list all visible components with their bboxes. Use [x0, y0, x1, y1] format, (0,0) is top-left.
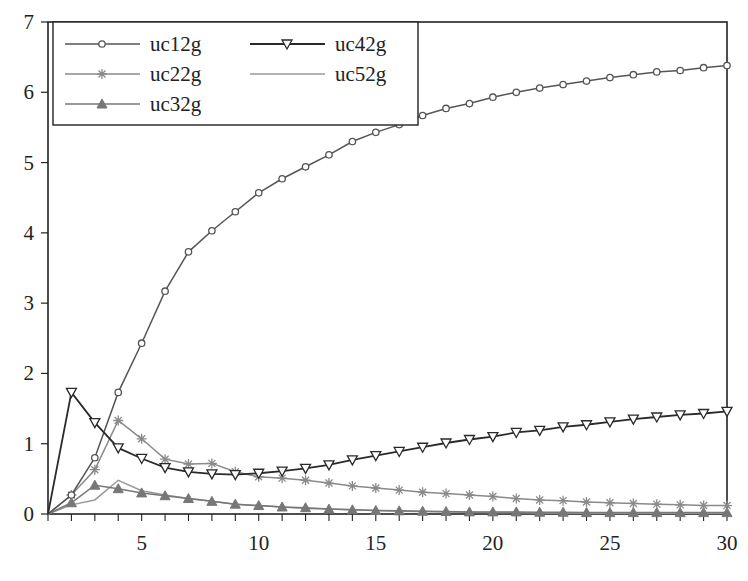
y-tick-label: 1 — [24, 432, 35, 456]
circle-marker — [490, 94, 496, 100]
y-tick-label: 0 — [24, 502, 35, 526]
star-marker — [97, 69, 107, 79]
circle-marker — [99, 41, 105, 47]
series-uc52g — [48, 480, 727, 514]
circle-marker — [162, 288, 168, 294]
star-marker — [90, 465, 100, 475]
legend-label: uc42g — [335, 32, 387, 56]
circle-marker — [92, 455, 98, 461]
legend-label: uc52g — [335, 62, 387, 86]
circle-marker — [443, 105, 449, 111]
star-marker — [394, 485, 404, 495]
circle-marker — [700, 64, 706, 70]
x-tick-label: 10 — [248, 531, 269, 555]
circle-marker — [138, 340, 144, 346]
star-marker — [605, 498, 615, 508]
star-marker — [699, 501, 709, 511]
star-marker — [207, 458, 217, 468]
x-tick-label: 5 — [136, 531, 147, 555]
y-tick-label: 3 — [24, 291, 35, 315]
legend-label: uc22g — [150, 62, 202, 86]
star-marker — [418, 487, 428, 497]
circle-marker — [419, 112, 425, 118]
triangle-up-marker — [90, 480, 100, 489]
star-marker — [324, 478, 334, 488]
y-tick-label: 5 — [24, 151, 35, 175]
star-marker — [160, 454, 170, 464]
y-tick-label: 2 — [24, 361, 35, 385]
circle-marker — [326, 152, 332, 158]
star-marker — [301, 475, 311, 485]
star-marker — [488, 491, 498, 501]
star-marker — [441, 489, 451, 499]
series-line — [48, 392, 727, 514]
y-tick-label: 4 — [24, 221, 35, 245]
series-uc42g — [48, 388, 732, 514]
series-line — [48, 480, 727, 514]
star-marker — [628, 498, 638, 508]
star-marker — [558, 496, 568, 506]
circle-marker — [466, 100, 472, 106]
legend-label: uc32g — [150, 92, 202, 116]
circle-marker — [677, 67, 683, 73]
series-layer — [48, 62, 732, 516]
circle-marker — [373, 129, 379, 135]
circle-marker — [607, 74, 613, 80]
circle-marker — [279, 176, 285, 182]
star-marker — [652, 499, 662, 509]
legend: uc12guc22guc32guc42guc52g — [53, 22, 418, 125]
star-marker — [675, 500, 685, 510]
circle-marker — [256, 190, 262, 196]
circle-marker — [302, 164, 308, 170]
y-tick-label: 6 — [24, 80, 35, 104]
x-tick-label: 30 — [717, 531, 738, 555]
circle-marker — [536, 85, 542, 91]
circle-marker — [209, 228, 215, 234]
y-tick-label: 7 — [24, 10, 35, 34]
star-marker — [113, 416, 123, 426]
x-tick-label: 20 — [482, 531, 503, 555]
line-chart: 0123456751015202530 uc12guc22guc32guc42g… — [0, 0, 748, 581]
series-uc32g — [48, 480, 732, 516]
circle-marker — [349, 138, 355, 144]
circle-marker — [724, 62, 730, 68]
circle-marker — [560, 81, 566, 87]
x-tick-label: 25 — [599, 531, 620, 555]
star-marker — [535, 495, 545, 505]
star-marker — [347, 481, 357, 491]
circle-marker — [583, 78, 589, 84]
series-line — [48, 421, 727, 514]
star-marker — [722, 501, 732, 511]
series-uc22g — [48, 416, 732, 514]
triangle-down-marker — [113, 444, 123, 453]
legend-label: uc12g — [150, 32, 202, 56]
star-marker — [582, 497, 592, 507]
star-marker — [464, 490, 474, 500]
x-tick-label: 15 — [365, 531, 386, 555]
circle-marker — [115, 389, 121, 395]
circle-marker — [185, 249, 191, 255]
circle-marker — [630, 72, 636, 78]
circle-marker — [513, 89, 519, 95]
star-marker — [137, 434, 147, 444]
star-marker — [371, 483, 381, 493]
circle-marker — [654, 69, 660, 75]
star-marker — [511, 494, 521, 504]
circle-marker — [232, 209, 238, 215]
circle-marker — [68, 492, 74, 498]
